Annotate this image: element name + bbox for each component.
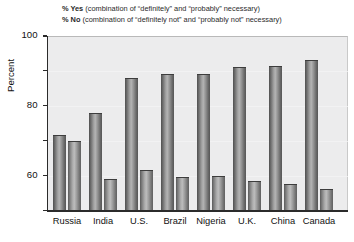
x-axis-line [47, 210, 348, 212]
bar [233, 67, 246, 210]
bar [125, 78, 138, 211]
bar [140, 170, 153, 210]
x-axis-label: China [271, 216, 295, 226]
y-axis-tick-label: 80 [27, 100, 38, 110]
bar [212, 176, 225, 211]
bar [68, 141, 81, 211]
x-axis-label: Brazil [163, 216, 186, 226]
bar [320, 189, 333, 210]
y-axis-tick-label: 60 [27, 170, 38, 180]
bar [305, 60, 318, 210]
legend-desc-no: (combination of “definitely not” and “pr… [80, 15, 281, 24]
x-axis-label: U.S. [130, 216, 148, 226]
bar [104, 179, 117, 210]
x-axis-label: U.K. [238, 216, 256, 226]
y-axis-line [47, 36, 48, 212]
legend-key-yes: % Yes [62, 4, 83, 13]
bar [284, 184, 297, 210]
bar [269, 66, 282, 211]
bar [176, 177, 189, 210]
x-axis-label: India [93, 216, 113, 226]
bar [53, 135, 66, 210]
legend-item-no: % No (combination of “definitely not” an… [62, 15, 352, 26]
x-axis-label: Nigeria [196, 216, 225, 226]
chart-legend: % Yes (combination of “definitely” and “… [62, 4, 352, 25]
x-axis-label: Russia [53, 216, 81, 226]
bar [161, 74, 174, 210]
legend-item-yes: % Yes (combination of “definitely” and “… [62, 4, 352, 15]
bar [197, 74, 210, 210]
bar-chart: 020406080100 [47, 36, 348, 212]
bar [248, 181, 261, 211]
y-axis-title: Percent [5, 59, 16, 92]
legend-desc-yes: (combination of “definitely” and “probab… [83, 4, 260, 13]
gridline [48, 71, 348, 72]
bar [89, 113, 102, 211]
legend-key-no: % No [62, 15, 80, 24]
y-axis-tick-label: 100 [21, 31, 37, 41]
x-axis-label: Canada [303, 216, 336, 226]
